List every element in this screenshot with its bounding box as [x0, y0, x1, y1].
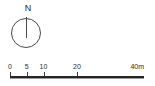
map-legend: N 05102040m: [0, 0, 155, 86]
scale-bar: 05102040m: [10, 62, 146, 84]
north-arrow-label: N: [8, 3, 48, 13]
scale-bar-tick-label: 40m: [130, 62, 144, 71]
scale-bar-tick-label: 20: [73, 62, 81, 71]
scale-bar-tick-label: 10: [40, 62, 48, 71]
north-arrow: N: [8, 3, 48, 55]
compass-needle-icon: [26, 17, 27, 38]
scale-bar-tick-label: 5: [25, 62, 29, 71]
scale-bar-tick-labels: 05102040m: [10, 62, 146, 72]
scale-bar-line-shadow: [10, 78, 144, 79]
scale-bar-tick-label: 0: [8, 62, 12, 71]
